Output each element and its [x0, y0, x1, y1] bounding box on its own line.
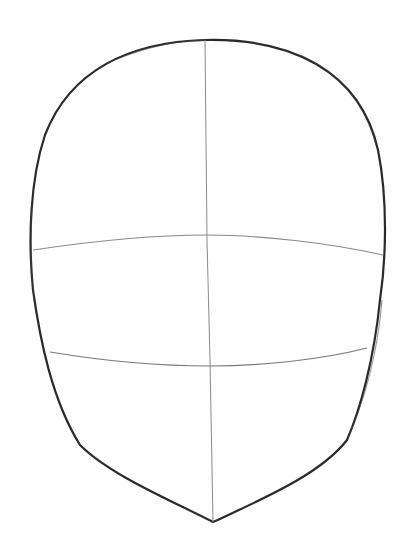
head-outline-shading: [31, 40, 382, 438]
head-sketch: [0, 0, 412, 558]
vertical-center-line: [205, 40, 213, 522]
eye-line: [33, 235, 383, 255]
sketch-canvas: [0, 0, 412, 558]
nose-line: [50, 348, 367, 366]
